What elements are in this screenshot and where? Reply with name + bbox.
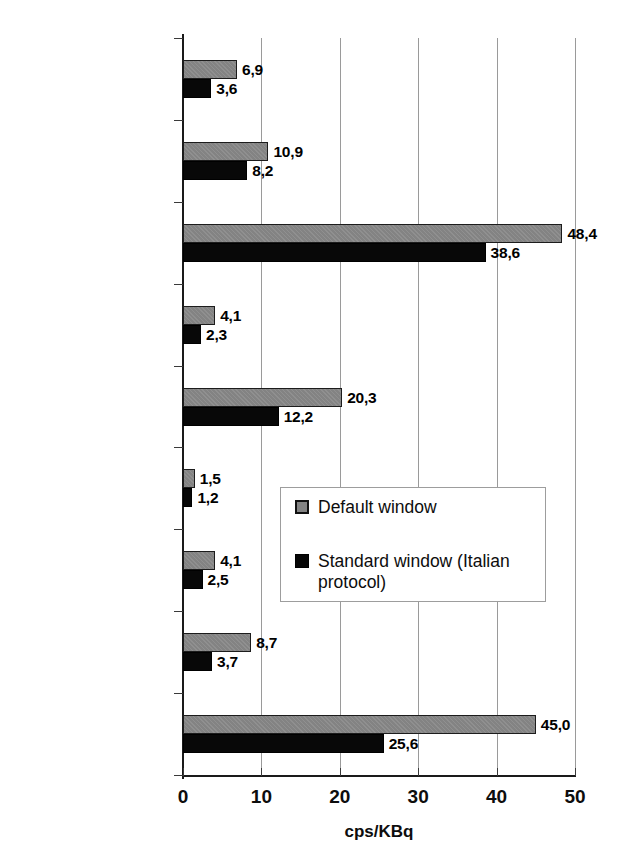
bar-value-label-standard-window: 3,7 — [217, 652, 238, 671]
bar-standard-window — [183, 407, 279, 426]
bar-standard-window — [183, 79, 211, 98]
x-axis-tick-label: 50 — [545, 786, 605, 808]
bar-default-window — [183, 60, 237, 79]
category-label-line: Navigator — [0, 67, 2, 87]
bar-default-window — [183, 715, 536, 734]
bar-default-window — [183, 633, 251, 652]
category-label-line: coll) — [0, 169, 2, 189]
category-label-line: Blue Tip 12mm — [0, 549, 2, 569]
bar-default-window — [183, 224, 562, 243]
bar-standard-window — [183, 161, 247, 180]
legend-entry-standard-window: Standard window (Italian protocol) — [295, 551, 530, 593]
x-axis-tick — [497, 768, 498, 776]
bar-value-label-default-window: 45,0 — [541, 715, 570, 734]
x-axis-tick-label: 0 — [153, 786, 213, 808]
bar-value-label-standard-window: 8,2 — [252, 161, 273, 180]
bar-default-window — [183, 388, 342, 407]
category-label: Blue Tip 19mm(NO int. coll.) — [0, 221, 2, 260]
category-label-line: Blue Tip 12mm — [0, 467, 2, 487]
category-label: Neoprobe 14mm — [0, 722, 2, 742]
y-axis-tick — [174, 529, 183, 530]
gridline — [497, 38, 498, 775]
bar-standard-window — [183, 734, 384, 753]
bar-standard-window — [183, 570, 203, 589]
bar-default-window — [183, 142, 268, 161]
y-axis-tick — [174, 366, 183, 367]
category-label-line: Neoprobe 14mm — [0, 722, 2, 742]
category-label-line: Blue Tip 12mm — [0, 385, 2, 405]
category-label: Neoprobe 14mm(ext. coll.) — [0, 631, 2, 670]
legend-label-standard-window: Standard window (Italian protocol) — [318, 551, 530, 593]
category-label-line: (NO int. coll. & ext. — [0, 149, 2, 169]
gridline — [575, 38, 576, 775]
bar-standard-window — [183, 488, 192, 507]
bar-value-label-standard-window: 2,5 — [208, 570, 229, 589]
bar-value-label-standard-window: 2,3 — [206, 325, 227, 344]
default-window-swatch — [295, 500, 309, 514]
category-label-line: Blue Tip 19mm — [0, 221, 2, 241]
y-axis-tick — [174, 611, 183, 612]
category-label-line: (NO int. coll.) — [0, 241, 2, 261]
category-label-line: Blue Tip 12mm — [0, 293, 2, 313]
bar-value-label-default-window: 4,1 — [220, 551, 241, 570]
bar-default-window — [183, 551, 215, 570]
bar-standard-window — [183, 243, 486, 262]
bar-standard-window — [183, 325, 201, 344]
category-label-line: (NO int. coll.) — [0, 405, 2, 425]
bar-value-label-standard-window: 3,6 — [216, 79, 237, 98]
bar-value-label-default-window: 20,3 — [347, 388, 376, 407]
bar-value-label-default-window: 8,7 — [256, 633, 277, 652]
gridline — [418, 38, 419, 775]
category-label: Navigator — [0, 67, 2, 87]
bar-value-label-standard-window: 1,2 — [197, 488, 218, 507]
bar-default-window — [183, 469, 195, 488]
bar-standard-window — [183, 652, 212, 671]
x-axis-tick — [418, 768, 419, 776]
y-axis-tick — [174, 202, 183, 203]
y-axis-tick — [174, 693, 183, 694]
x-axis-tick — [575, 768, 576, 776]
y-axis-tick — [174, 284, 183, 285]
legend-label-default-window: Default window — [318, 497, 437, 518]
standard-window-swatch — [295, 554, 309, 568]
bar-value-label-default-window: 10,9 — [273, 142, 302, 161]
category-label-line: (ext. coll.) — [0, 650, 2, 670]
x-axis-tick — [261, 768, 262, 776]
category-label: Blue Tip 12mm(NO int. coll.) — [0, 385, 2, 424]
x-axis-tick — [340, 768, 341, 776]
category-label-line: Neoprobe 14mm — [0, 631, 2, 651]
category-label-line: Blue Tip 19mm — [0, 130, 2, 150]
category-label: Blue Tip 12mm(int. coll.) — [0, 549, 2, 588]
category-label-line: (int. & ext. coll.) — [0, 486, 2, 506]
y-axis-tick — [174, 120, 183, 121]
x-axis-tick-label: 10 — [231, 786, 291, 808]
bar-value-label-standard-window: 12,2 — [284, 407, 313, 426]
category-label-line: coll) — [0, 332, 2, 352]
legend-entry-default-window: Default window — [295, 497, 437, 518]
x-axis-tick — [183, 768, 184, 776]
bar-default-window — [183, 306, 215, 325]
bar-value-label-standard-window: 25,6 — [389, 734, 418, 753]
category-label: Blue Tip 12mm(int. & ext. coll.) — [0, 467, 2, 506]
x-axis-tick-label: 40 — [467, 786, 527, 808]
bar-value-label-default-window: 1,5 — [200, 469, 221, 488]
category-label-line: (int. coll.) — [0, 568, 2, 588]
bar-value-label-default-window: 48,4 — [567, 224, 596, 243]
x-axis-line — [182, 775, 576, 777]
y-axis-tick — [174, 447, 183, 448]
bar-value-label-default-window: 6,9 — [242, 60, 263, 79]
y-axis-tick — [174, 38, 183, 39]
category-label: Blue Tip 19mm(NO int. coll. & ext.coll) — [0, 130, 2, 189]
bar-value-label-standard-window: 38,6 — [491, 243, 520, 262]
gridline — [340, 38, 341, 775]
x-axis-tick-label: 30 — [388, 786, 448, 808]
x-axis-title: cps/KBq — [183, 822, 575, 842]
bar-chart: 6,93,610,98,248,438,64,12,320,312,21,51,… — [0, 0, 625, 863]
x-axis-tick-label: 20 — [310, 786, 370, 808]
category-label-line: (NO int. coll. & ext. — [0, 313, 2, 333]
bar-value-label-default-window: 4,1 — [220, 306, 241, 325]
category-label: Blue Tip 12mm(NO int. coll. & ext.coll) — [0, 293, 2, 352]
y-axis-tick — [174, 775, 183, 776]
chart-legend: Default window Standard window (Italian … — [280, 487, 546, 602]
